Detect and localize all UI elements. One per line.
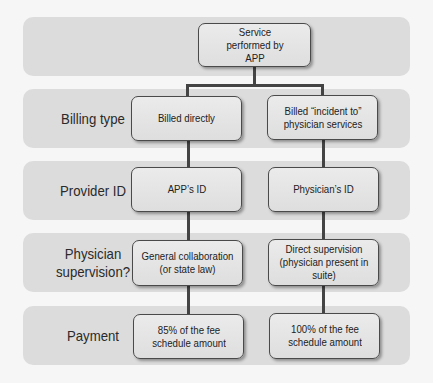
root-box: Service performed by APP [198, 23, 311, 67]
billed-directly-box: Billed directly [131, 96, 242, 141]
payment-85-text: 85% of the fee schedule amount [149, 324, 228, 350]
connector-horizontal [186, 84, 324, 87]
payment-100-text: 100% of the fee schedule amount [285, 323, 364, 349]
apps-id-text: APP’s ID [167, 183, 206, 196]
direct-supervision-text: Direct supervision (physician present in… [278, 243, 370, 282]
billed-directly-text: Billed directly [158, 112, 215, 125]
direct-supervision-box: Direct supervision (physician present in… [268, 239, 379, 286]
apps-id-box: APP’s ID [131, 167, 242, 212]
general-collaboration-box: General collaboration (or state law) [132, 240, 243, 286]
physicians-id-text: Physician’s ID [293, 183, 354, 196]
billed-incident-to-text: Billed “incident to” physician services [279, 105, 367, 131]
billed-incident-to-box: Billed “incident to” physician services [267, 95, 378, 140]
root-box-text: Service performed by APP [219, 26, 289, 65]
payment-85-box: 85% of the fee schedule amount [133, 314, 244, 359]
payment-100-box: 100% of the fee schedule amount [269, 313, 380, 359]
general-collaboration-text: General collaboration (or state law) [140, 250, 236, 276]
physicians-id-box: Physician’s ID [268, 167, 379, 212]
